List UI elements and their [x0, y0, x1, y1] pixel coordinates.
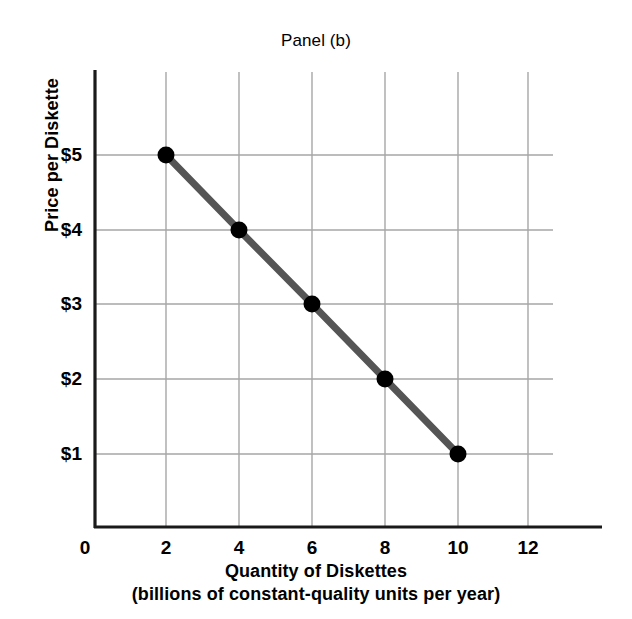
y-gridlines [95, 155, 553, 454]
y-tick-label-2: $2 [26, 369, 82, 388]
x-axis-title: Quantity of Diskettes [0, 561, 632, 582]
y-axis-title-text: Price per Diskette [42, 78, 63, 232]
data-point [231, 222, 248, 239]
data-point [158, 147, 175, 164]
y-axis-title: Price per Diskette [37, 25, 67, 285]
x-tick-label-2: 2 [141, 538, 191, 557]
chart-plot-area [0, 0, 632, 619]
x-tick-label-10: 10 [433, 538, 483, 557]
data-point [450, 446, 467, 463]
x-axis-subtitle: (billions of constant-quality units per … [0, 584, 632, 605]
x-tick-label-8: 8 [360, 538, 410, 557]
x-tick-label-6: 6 [287, 538, 337, 557]
x-tick-label-12: 12 [503, 538, 553, 557]
chart-figure: Panel (b) [0, 0, 632, 619]
x-tick-label-0: 0 [60, 538, 110, 557]
x-gridlines [166, 72, 528, 527]
y-tick-label-1: $1 [26, 444, 82, 463]
data-point [304, 296, 321, 313]
y-tick-label-3: $3 [26, 294, 82, 313]
data-point [377, 371, 394, 388]
x-tick-label-4: 4 [214, 538, 264, 557]
